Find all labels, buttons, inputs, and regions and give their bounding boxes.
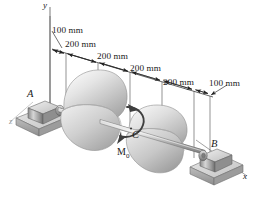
support-b-label: B xyxy=(211,139,217,150)
z-axis-label: z xyxy=(9,117,13,126)
dimension-label-3: 200 mm xyxy=(97,52,128,61)
dimension-label-4: 200 mm xyxy=(130,64,161,73)
dimension-label-1: 100 mm xyxy=(52,26,83,35)
pulley-left-lower xyxy=(61,105,120,151)
point-c-label: C xyxy=(132,130,139,141)
support-b xyxy=(190,149,243,185)
dimension-label-6: 100 mm xyxy=(209,79,240,88)
x-axis-label: x xyxy=(243,172,247,181)
y-axis-label: y xyxy=(43,1,47,10)
moment-subscript: 0 xyxy=(126,152,130,160)
figure-drawing xyxy=(0,0,258,198)
pulley-left xyxy=(61,70,127,151)
moment-label: M0 xyxy=(117,147,129,160)
moment-symbol: M xyxy=(117,146,126,157)
dimension-label-2: 200 mm xyxy=(65,40,96,49)
support-b-bearing-bore xyxy=(202,153,206,158)
dimension-label-5: 200 mm xyxy=(163,78,194,87)
figure-container: y z x A B C M0 100 mm 200 mm 200 mm 200 … xyxy=(0,0,258,198)
support-a-label: A xyxy=(27,89,33,100)
